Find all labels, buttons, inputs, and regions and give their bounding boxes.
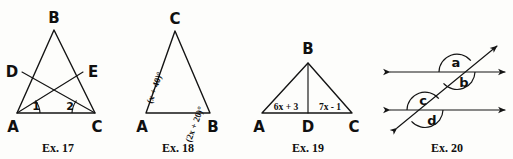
figure-caption: Ex. 18: [162, 141, 194, 155]
vertex-label-b: B: [207, 118, 218, 136]
angle-label-1: 1: [32, 100, 40, 113]
vertex-label-c: C: [91, 118, 102, 136]
vertex-label-d: D: [6, 63, 18, 81]
vertex-label-b: B: [302, 40, 313, 58]
angle-expression-b: (2x + 20)°: [183, 105, 206, 144]
segment-expression-ad: 6x + 3: [274, 102, 299, 112]
angle-label-b: b: [459, 75, 468, 90]
vertex-label-a: A: [136, 118, 148, 136]
triangle-abc-outline: [17, 30, 95, 113]
angle-expression-a: (x + 40)°: [144, 70, 164, 105]
figure-ex-19: 6x + 3 7x - 1 B A D C Ex. 19: [250, 0, 375, 159]
angle-label-a: a: [452, 55, 461, 70]
figure-sheet: 1 2 B D E A C Ex. 17 (x + 40)° (2x + 20)…: [0, 0, 513, 159]
vertex-label-d: D: [302, 118, 314, 136]
vertex-label-a: A: [253, 118, 265, 136]
ex-17-diagram: 1 2 B D E A C Ex. 17: [0, 0, 128, 159]
ex-19-diagram: 6x + 3 7x - 1 B A D C Ex. 19: [250, 0, 375, 159]
angle-label-d: d: [427, 113, 436, 128]
figure-caption: Ex. 17: [42, 141, 74, 155]
vertex-label-b: B: [48, 9, 59, 27]
figure-ex-17: 1 2 B D E A C Ex. 17: [0, 0, 128, 159]
figure-ex-18: (x + 40)° (2x + 20)° C A B Ex. 18: [128, 0, 250, 159]
angle-label-2: 2: [66, 100, 74, 113]
vertex-label-c: C: [169, 10, 180, 28]
vertex-label-c: C: [348, 118, 359, 136]
segment-expression-dc: 7x - 1: [319, 102, 341, 112]
vertex-label-e: E: [88, 63, 98, 81]
figure-ex-20: a b c d Ex. 20: [375, 0, 513, 159]
figure-caption: Ex. 20: [431, 141, 463, 155]
ex-18-diagram: (x + 40)° (2x + 20)° C A B Ex. 18: [128, 0, 250, 159]
vertex-label-a: A: [7, 118, 19, 136]
angle-label-c: c: [419, 93, 427, 108]
figure-caption: Ex. 19: [292, 141, 324, 155]
ex-20-diagram: a b c d Ex. 20: [375, 0, 513, 159]
